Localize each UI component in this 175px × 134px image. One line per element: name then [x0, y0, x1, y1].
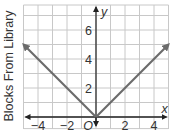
x-tick-label: −2: [60, 119, 74, 133]
y-tick-label: 4: [85, 53, 92, 67]
chart: −4−224246Oxy: [0, 0, 175, 134]
origin-label: O: [83, 119, 93, 133]
y-tick-label: 6: [85, 24, 92, 38]
y-axis-name: y: [100, 5, 108, 19]
y-tick-label: 2: [85, 82, 92, 96]
x-tick-label: 2: [122, 119, 129, 133]
x-axis-name: x: [160, 102, 168, 116]
x-tick-label: −4: [31, 119, 45, 133]
series-segment: [96, 45, 169, 118]
x-tick-label: 4: [151, 119, 158, 133]
